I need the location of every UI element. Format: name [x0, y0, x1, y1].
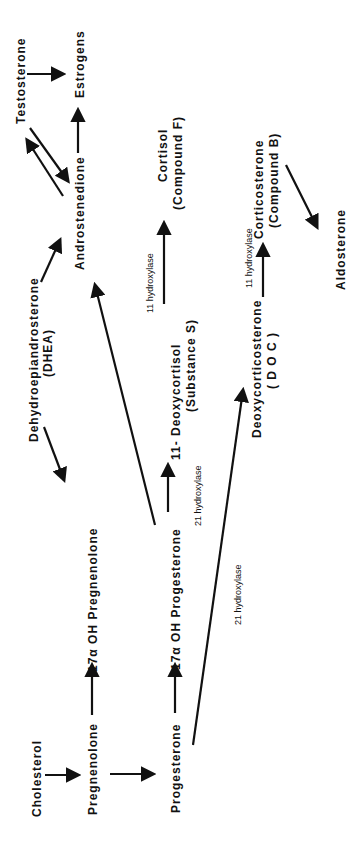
- node-deoxycortisol-line2: (Substance S): [184, 319, 198, 412]
- steroid-pathway-diagram: Cholesterol Pregnenolone Progesterone 17…: [0, 0, 353, 861]
- enzyme-label-21-hydroxylase-lower: 21 hydroxylase: [233, 564, 243, 625]
- node-aldosterone: Aldosterone: [334, 209, 348, 290]
- node-cortisol-line1: Cortisol: [156, 129, 170, 182]
- arrow-corticosterone-to-aldosterone: [286, 165, 317, 227]
- node-dhea-line2: (DHEA): [41, 329, 55, 377]
- node-doc-line2: ( D O C ): [265, 332, 279, 389]
- node-17oh-progesterone: 17α OH Progesterone: [169, 528, 183, 670]
- node-pregnenolone: Pregnenolone: [86, 723, 100, 815]
- node-progesterone: Progesterone: [169, 724, 183, 813]
- node-deoxycortisol-line1: 11- Deoxycortisol: [169, 344, 183, 460]
- enzyme-label-11-hydroxylase-upper: 11 hydroxylase: [145, 253, 155, 313]
- node-cholesterol: Cholesterol: [30, 740, 44, 817]
- arrow-17oh-progesterone-to-androstenedione: [95, 285, 155, 525]
- node-testosterone: Testosterone: [14, 38, 28, 124]
- node-doc-line1: Deoxycorticosterone: [250, 300, 264, 438]
- enzyme-label-11-hydroxylase-lower: 11 hydroxylase: [244, 228, 254, 288]
- arrow-dhea-to-androstenedione: [41, 240, 60, 282]
- enzyme-label-21-hydroxylase-upper: 21 hydroxylase: [193, 465, 203, 526]
- node-cortisol-line2: (Compound F): [171, 116, 185, 210]
- node-androstenedione: Androstenedione: [73, 156, 87, 270]
- arrow-dhea-to-17oh-pregnenolone: [44, 427, 64, 480]
- node-corticosterone-line1: Corticosterone: [252, 140, 266, 239]
- node-estrogens: Estrogens: [73, 30, 87, 98]
- node-17oh-pregnenolone: 17α OH Pregnenolone: [86, 528, 100, 672]
- node-corticosterone-line2: (Compound B): [267, 133, 281, 228]
- node-dhea-line1: Dehydroepiandrosterone: [27, 277, 41, 442]
